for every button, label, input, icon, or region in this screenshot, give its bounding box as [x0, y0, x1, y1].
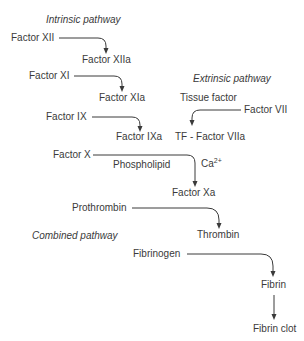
- label-calcium: Ca2+: [201, 158, 222, 170]
- arrow-xii-to-xiia: [59, 38, 106, 49]
- arrowhead-icon: [190, 120, 195, 126]
- node-tf-factor-viia: TF - Factor VIIa: [175, 131, 245, 143]
- node-fibrin-clot: Fibrin clot: [253, 323, 296, 335]
- arrowhead-icon: [272, 314, 277, 320]
- node-thrombin: Thrombin: [197, 229, 239, 241]
- extrinsic-pathway-heading: Extrinsic pathway: [193, 73, 271, 85]
- calcium-symbol: Ca: [201, 158, 214, 169]
- arrow-ix-to-ixa: [92, 117, 140, 127]
- calcium-charge: 2+: [214, 157, 222, 164]
- arrowhead-icon: [271, 271, 276, 277]
- node-tissue-factor: Tissue factor: [180, 92, 237, 104]
- intrinsic-pathway-heading: Intrinsic pathway: [46, 14, 120, 26]
- node-factor-x: Factor X: [53, 149, 91, 161]
- node-factor-ixa: Factor IXa: [116, 131, 162, 143]
- combined-pathway-heading: Combined pathway: [32, 230, 118, 242]
- node-factor-xia: Factor XIa: [99, 92, 145, 104]
- arrow-xi-to-xia: [74, 76, 122, 87]
- arrow-prothrombin-to-thrombin: [132, 208, 219, 224]
- node-fibrin: Fibrin: [261, 279, 286, 291]
- node-prothrombin: Prothrombin: [72, 202, 126, 214]
- node-factor-xa: Factor Xa: [172, 187, 215, 199]
- node-factor-xii: Factor XII: [11, 32, 54, 44]
- node-factor-xi: Factor XI: [29, 70, 70, 82]
- arrow-fibrinogen-to-fibrin: [187, 254, 273, 272]
- node-factor-ix: Factor IX: [46, 111, 87, 123]
- node-factor-xiia: Factor XIIa: [82, 54, 131, 66]
- arrow-vii-to-tfviia: [192, 110, 241, 121]
- node-factor-vii: Factor VII: [244, 104, 287, 116]
- label-phospholipid: Phospholipid: [113, 159, 170, 171]
- coagulation-cascade-diagram: Intrinsic pathway Extrinsic pathway Comb…: [0, 0, 304, 341]
- node-fibrinogen: Fibrinogen: [133, 248, 180, 260]
